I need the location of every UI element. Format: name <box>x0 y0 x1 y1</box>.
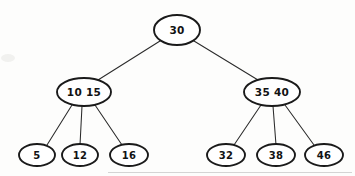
tree-node-leaf-46[interactable]: 46 <box>305 144 343 166</box>
edge-root-right <box>194 41 258 80</box>
edge-right-38 <box>273 106 276 145</box>
tree-node-root[interactable]: 30 <box>154 15 200 45</box>
node-label-leaf-38: 38 <box>269 150 284 161</box>
tree-diagram-svg: 3010 1535 4051216323846 <box>0 0 355 176</box>
tree-node-leaf-38[interactable]: 38 <box>257 144 295 166</box>
tree-node-leaf-5[interactable]: 5 <box>19 144 55 166</box>
tree-nodes-group: 3010 1535 4051216323846 <box>19 15 343 166</box>
scan-smudge-left <box>1 54 15 62</box>
node-label-internal-left: 10 15 <box>67 86 101 98</box>
node-label-leaf-12: 12 <box>73 150 88 161</box>
edge-right-32 <box>234 105 261 145</box>
tree-node-internal-left[interactable]: 10 15 <box>57 78 111 106</box>
tree-node-leaf-16[interactable]: 16 <box>110 144 148 166</box>
tree-node-leaf-32[interactable]: 32 <box>207 144 245 166</box>
edge-left-5 <box>47 105 72 145</box>
edge-root-left <box>98 41 160 80</box>
tree-diagram-canvas: 3010 1535 4051216323846 <box>0 0 355 176</box>
edge-left-12 <box>80 106 82 145</box>
node-label-leaf-32: 32 <box>219 150 234 161</box>
node-label-leaf-5: 5 <box>33 150 40 161</box>
tree-node-leaf-12[interactable]: 12 <box>62 144 98 166</box>
node-label-root: 30 <box>169 24 184 36</box>
node-label-leaf-46: 46 <box>317 150 332 161</box>
node-label-internal-right: 35 40 <box>255 86 289 98</box>
edge-right-46 <box>285 105 314 145</box>
edge-left-16 <box>95 105 122 145</box>
node-label-leaf-16: 16 <box>122 150 137 161</box>
tree-node-internal-right[interactable]: 35 40 <box>244 78 300 106</box>
